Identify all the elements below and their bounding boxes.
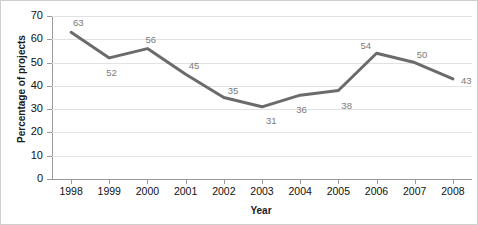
data-label-2007: 50 [417,49,428,60]
series-line-group [1,1,478,225]
data-label-2002: 35 [228,85,239,96]
data-label-2008: 43 [461,75,472,86]
data-label-2004: 36 [296,104,307,115]
line-chart: Percentage of projects 010203040506070 1… [0,0,478,225]
data-label-2003: 31 [266,115,277,126]
data-label-1999: 52 [106,67,117,78]
data-label-2005: 38 [341,100,352,111]
x-axis-title: Year [51,205,471,216]
data-label-1998: 63 [73,17,84,28]
data-label-2001: 45 [189,60,200,71]
series-line-percentage-of-projects [71,32,453,107]
data-label-2006: 54 [361,40,372,51]
data-label-2000: 56 [145,34,156,45]
